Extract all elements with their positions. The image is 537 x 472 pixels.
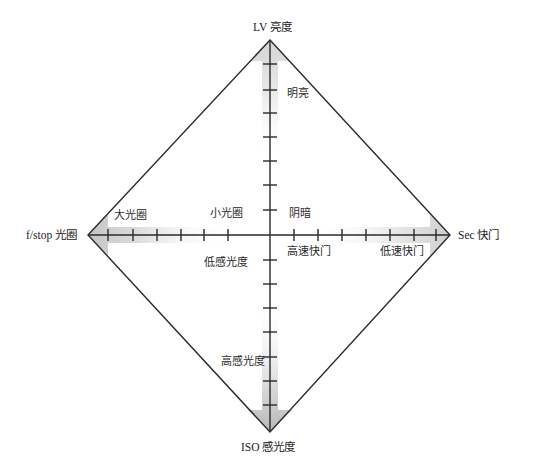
- axis-label-lv: LV 亮度: [253, 20, 292, 34]
- label-low-sensitivity: 低感光度: [204, 256, 248, 270]
- label-dark: 阴暗: [289, 207, 311, 221]
- label-large-aperture: 大光圈: [114, 209, 147, 223]
- label-bright: 明亮: [287, 87, 309, 101]
- axis-label-iso: ISO 感光度: [241, 440, 295, 454]
- diagram-canvas: [0, 0, 537, 472]
- label-small-aperture: 小光圈: [210, 207, 243, 221]
- exposure-diamond-diagram: LV 亮度 f/stop 光圈 Sec 快门 ISO 感光度 明亮 阴暗 大光圈…: [0, 0, 537, 472]
- label-high-sensitivity: 高感光度: [221, 355, 265, 369]
- label-high-speed-shutter: 高速快门: [287, 245, 331, 259]
- axis-label-sec: Sec 快门: [458, 228, 499, 242]
- axis-label-fstop: f/stop 光圈: [26, 228, 77, 242]
- label-low-speed-shutter: 低速快门: [380, 245, 424, 259]
